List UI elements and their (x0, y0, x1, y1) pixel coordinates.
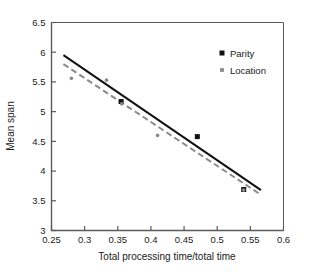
y-tick-label: 5.5 (32, 76, 45, 87)
x-tick-label: 0.35 (109, 234, 128, 245)
x-tick-label: 0.55 (241, 234, 260, 245)
x-axis-title: Total processing time/total time (98, 251, 236, 262)
scatter-plot: 0.250.30.350.40.450.50.550.6 33.544.555.… (0, 0, 314, 274)
y-axis-title: Mean span (5, 101, 16, 150)
y-tick-label: 4 (40, 165, 45, 176)
x-tick-label: 0.6 (277, 234, 290, 245)
x-tick-label: 0.45 (175, 234, 194, 245)
data-point-parity (195, 134, 200, 139)
data-point-location (105, 78, 109, 82)
y-tick-label: 4.5 (32, 136, 45, 147)
data-point-location (70, 77, 74, 81)
y-tick-label: 5 (40, 106, 45, 117)
y-tick-label: 6 (40, 47, 45, 58)
y-tick-label: 6.5 (32, 17, 45, 28)
legend-label-location: Location (230, 65, 266, 76)
y-tick-label: 3.5 (32, 195, 45, 206)
data-point-location (156, 134, 160, 138)
legend-label-parity: Parity (230, 48, 255, 59)
data-point-location (242, 188, 246, 192)
x-tick-label: 0.3 (78, 234, 91, 245)
data-point-location (120, 102, 124, 106)
chart-figure: 0.250.30.350.40.450.50.550.6 33.544.555.… (0, 0, 314, 274)
x-tick-label: 0.5 (211, 234, 224, 245)
legend-swatch-parity (220, 51, 225, 56)
x-tick-label: 0.4 (144, 234, 157, 245)
y-tick-label: 3 (40, 225, 45, 236)
legend-swatch-location (220, 68, 224, 72)
